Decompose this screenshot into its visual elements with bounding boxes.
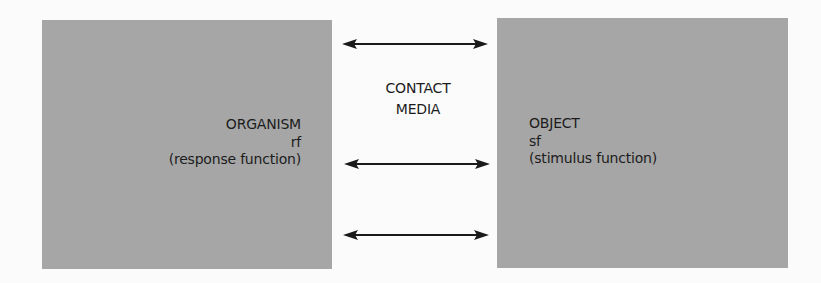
- object-box: OBJECT sf (stimulus function): [497, 18, 788, 268]
- organism-description: (response function): [169, 151, 301, 169]
- object-abbrev: sf: [529, 133, 657, 151]
- organism-label: ORGANISM rf (response function): [169, 116, 301, 169]
- object-description: (stimulus function): [529, 150, 657, 168]
- object-label: OBJECT sf (stimulus function): [529, 115, 657, 168]
- contact-media-line1: CONTACT: [358, 78, 478, 99]
- double-arrow-icon-bottom: [341, 228, 491, 242]
- organism-box: ORGANISM rf (response function): [42, 20, 332, 269]
- contact-media-line2: MEDIA: [358, 99, 478, 120]
- contact-media-label: CONTACT MEDIA: [358, 78, 478, 120]
- double-arrow-icon-top: [340, 37, 490, 51]
- organism-abbrev: rf: [169, 134, 301, 152]
- object-title: OBJECT: [529, 115, 657, 133]
- organism-title: ORGANISM: [169, 116, 301, 134]
- double-arrow-icon-middle: [342, 157, 492, 171]
